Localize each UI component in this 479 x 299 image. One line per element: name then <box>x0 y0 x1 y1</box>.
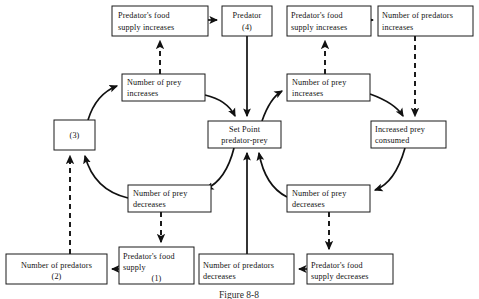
node-label-line2: increases <box>292 89 323 98</box>
node-label-line1: Predator's food <box>311 261 363 270</box>
node-label-line1: Number of predators <box>21 261 92 270</box>
node-label-line2: supply decreases <box>311 272 369 281</box>
edge-node3-to-preyincleft <box>88 86 117 120</box>
node-label-line1: Set Point <box>229 125 261 134</box>
node-prey-decreases-right[interactable]: Number of prey decreases <box>287 185 370 212</box>
figure-container: Predator's food supply increases Predato… <box>0 0 479 299</box>
node-label-line2: supply increases <box>291 23 347 32</box>
node-num-predators-increases[interactable]: Number of predators increases <box>378 6 473 36</box>
node-set-point[interactable]: Set Point predator-prey <box>208 121 281 148</box>
node-label-line2: (2) <box>52 272 62 281</box>
node-label-line2: predator-prey <box>221 136 268 145</box>
node-label-line1: Number of prey <box>292 189 347 198</box>
node-label-line1: Predator's food <box>123 252 175 261</box>
node-prey-increases-left[interactable]: Number of prey increases <box>122 74 205 101</box>
edge-setpoint-to-preydecleft <box>206 148 234 189</box>
edge-preyincleft-to-setpoint <box>205 95 235 116</box>
edge-preydecleft-to-node3 <box>85 156 128 198</box>
figure-caption: Figure 8-8 <box>219 290 259 299</box>
node-label-line1: Predator's food <box>118 11 170 20</box>
node-label-line2: decreases <box>203 272 236 281</box>
node-label-line1: Predator <box>233 11 262 20</box>
node-label-line2: consumed <box>375 136 409 145</box>
edge-preyincright-to-increasedprey <box>370 94 403 116</box>
node-label-line1: Number of prey <box>133 189 188 198</box>
edge-increasedprey-to-preydecright <box>375 148 405 190</box>
node-label-line2: supply <box>123 263 146 272</box>
node-prey-decreases-left[interactable]: Number of prey decreases <box>128 185 211 212</box>
node-num-predators-decreases[interactable]: Number of predators decreases <box>199 254 294 284</box>
edge-preydecright-to-setpoint <box>259 153 287 197</box>
node-label-line2: increases <box>127 89 158 98</box>
node-label-line1: Number of predators <box>203 261 274 270</box>
node-predator[interactable]: Predator (4) <box>222 6 272 36</box>
node-label-line3: (1) <box>152 274 162 283</box>
node-3[interactable]: (3) <box>54 120 95 150</box>
node-label-line1: Increased prey <box>375 125 426 134</box>
node-pred-food-increases-left[interactable]: Predator's food supply increases <box>112 6 208 36</box>
node-label-line2: decreases <box>292 200 325 209</box>
node-prey-increases-right[interactable]: Number of prey increases <box>287 74 370 101</box>
node-label-line1: Number of predators <box>382 11 453 20</box>
node-label-line2: increases <box>382 23 413 32</box>
node-label-line1: Number of prey <box>127 78 182 87</box>
node-label-line1: Predator's food <box>291 11 343 20</box>
node-label-line1: (3) <box>70 131 80 140</box>
feedback-loop-diagram: Predator's food supply increases Predato… <box>0 0 479 299</box>
node-num-predators-2[interactable]: Number of predators (2) <box>6 254 107 284</box>
node-label-line2: supply increases <box>118 23 174 32</box>
node-pred-food-increases-right[interactable]: Predator's food supply increases <box>287 6 371 36</box>
node-label-line2: decreases <box>133 200 166 209</box>
edge-setpoint-to-preyincright <box>262 91 282 121</box>
node-increased-prey-consumed[interactable]: Increased prey consumed <box>371 121 446 148</box>
node-pred-food-supply-1[interactable]: Predator's food supply (1) <box>119 247 194 284</box>
node-pred-food-supply-decreases[interactable]: Predator's food supply decreases <box>307 254 393 284</box>
node-label-line2: (4) <box>242 23 252 32</box>
node-label-line1: Number of prey <box>292 78 347 87</box>
